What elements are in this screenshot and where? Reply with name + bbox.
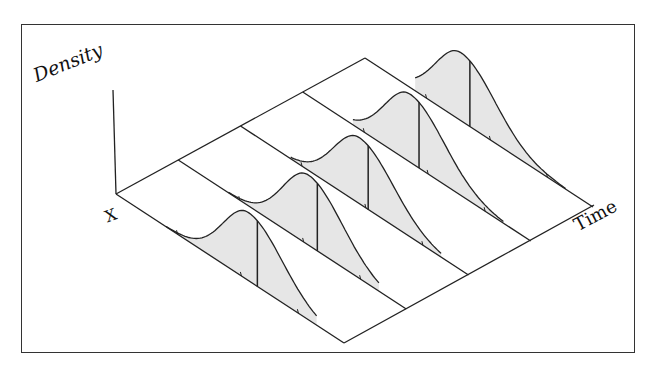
density-axis (113, 90, 116, 194)
time-axis-front (344, 205, 594, 343)
density-slices (116, 51, 593, 343)
